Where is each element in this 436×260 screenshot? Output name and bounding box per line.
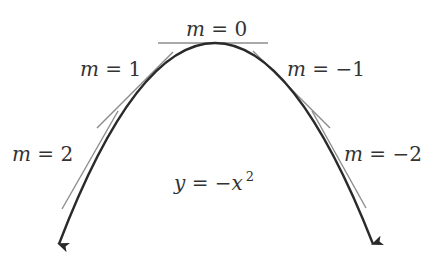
label-m2: m = 2 [12,142,73,166]
label-m-neg1: m = −1 [287,57,365,81]
parabola-diagram: m = 0 m = 1 m = −1 m = 2 m = −2 y = −x2 [0,0,436,260]
label-m1: m = 1 [80,57,141,81]
label-m0: m = 0 [186,17,247,41]
label-m-neg2: m = −2 [344,142,422,166]
label-equation: y = −x2 [173,169,254,195]
